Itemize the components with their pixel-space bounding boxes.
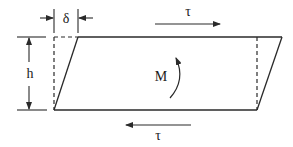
moment-label: M	[155, 69, 168, 84]
height-label: h	[27, 66, 34, 81]
delta-label: δ	[63, 11, 70, 26]
shear-deformation-diagram: δ h τ τ M	[0, 0, 293, 147]
left-slanted-edge	[54, 37, 78, 110]
bottom-shear-label: τ	[155, 128, 161, 143]
deformed-parallelogram	[54, 37, 282, 110]
right-slanted-edge	[257, 37, 282, 110]
moment-arrow	[170, 58, 180, 98]
top-shear-label: τ	[185, 4, 191, 19]
